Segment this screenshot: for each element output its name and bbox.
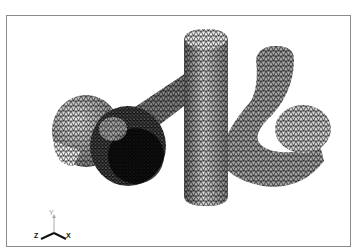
axis-x-label: X [66,232,71,239]
model-viewport[interactable]: Y Z X [6,15,351,247]
axis-y-label: Y [49,209,54,216]
curved-pipe [219,46,331,187]
axis-z-label: Z [34,232,38,239]
vertical-cylinder [184,29,228,206]
axis-triad: Y Z X [29,209,79,245]
dark-sphere [90,106,166,186]
axis-triad-icon [29,209,79,245]
